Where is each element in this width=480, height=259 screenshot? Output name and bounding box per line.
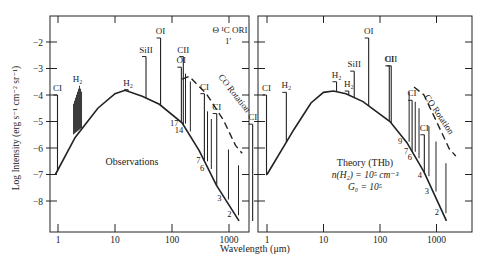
emission-line-label: OI	[156, 26, 166, 36]
left-co-label: CO Rotation	[216, 72, 252, 115]
emission-line-label: CI	[212, 102, 221, 112]
co-j-label: 14	[175, 125, 184, 135]
emission-line-label: SiII	[347, 59, 361, 69]
emission-line-label: CI	[200, 82, 209, 92]
source-label: Θ ¹C ORI	[212, 25, 247, 35]
emission-line-label: OI	[364, 26, 374, 36]
x-tick-label: 10	[110, 235, 120, 245]
right-param-g0: G₀ = 10⁵	[348, 182, 383, 192]
y-tick-label: −8	[33, 197, 43, 207]
right-panel: 1101001000 CIH₂H₂H₂SiIIOIOICIICICI976432…	[254, 16, 472, 245]
co-j-label: 9	[398, 136, 402, 146]
emission-line-label: H₂	[344, 79, 354, 89]
left-panel: −2−3−4−5−6−7−8 1101001000 CIH₂H₂SiIIOIOI…	[33, 16, 257, 245]
emission-line-label: H₂	[73, 74, 83, 84]
emission-line-label: H₂	[123, 78, 133, 88]
x-tick-label: 100	[165, 235, 180, 245]
x-tick-label: 1	[56, 235, 61, 245]
y-tick-label: −2	[33, 38, 43, 48]
y-tick-label: −5	[33, 117, 43, 127]
emission-line-label: H₂	[332, 70, 342, 80]
co-j-label: 6	[200, 163, 204, 173]
source-sublabel: 1'	[225, 36, 232, 46]
x-tick-label: 1000	[427, 235, 446, 245]
y-tick-label: −4	[33, 91, 43, 101]
left-panel-title: Observations	[106, 156, 159, 167]
x-axis-label: Wavelength (μm)	[220, 243, 290, 255]
right-param-density: n(H₂) = 10⁵ cm⁻³	[332, 170, 399, 181]
emission-line-label: CI	[248, 112, 257, 122]
co-j-label: 3	[217, 193, 221, 203]
right-continuum-curve	[267, 91, 446, 221]
emission-line-label: CII	[177, 45, 189, 55]
y-tick-label: −6	[33, 144, 43, 154]
co-j-label: 2	[227, 209, 231, 219]
y-axis-label: Log Intensity (erg s⁻¹ cm⁻² sr⁻¹)	[11, 66, 22, 190]
co-j-label: 4	[418, 170, 423, 180]
x-tick-label: 100	[373, 235, 388, 245]
spectrum-figure: Log Intensity (erg s⁻¹ cm⁻² sr⁻¹) −2−3−4…	[0, 0, 480, 259]
x-tick-label: 10	[319, 235, 329, 245]
co-j-label: 3	[425, 186, 429, 196]
y-tick-label: −3	[33, 64, 43, 74]
emission-line-label: H₂	[282, 80, 292, 90]
right-panel-title: Theory (THb)	[337, 157, 393, 169]
emission-line-label: CI	[53, 83, 62, 93]
co-j-label: 2	[435, 207, 439, 217]
emission-line-label: CII	[385, 54, 397, 64]
y-tick-label: −7	[33, 170, 43, 180]
emission-line-label: SiII	[139, 45, 153, 55]
emission-line-label: CI	[420, 123, 429, 133]
left-emission-lines: CIH₂H₂SiIIOIOICIICICICI17147632	[53, 26, 257, 221]
emission-line-label: CI	[262, 83, 271, 93]
co-j-label: 6	[408, 152, 412, 162]
